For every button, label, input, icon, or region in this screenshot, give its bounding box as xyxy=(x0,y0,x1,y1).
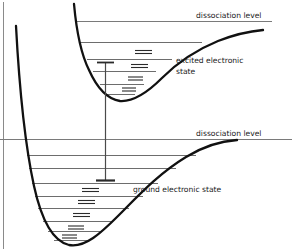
excited-state-label-line1: excited electronic xyxy=(176,56,243,65)
continuation-mark-group-c xyxy=(128,77,143,80)
ground-continuation-mark-group-b xyxy=(78,201,95,204)
ground-state-label: ground electronic state xyxy=(133,185,222,194)
ground-continuation-mark-group-a xyxy=(82,189,99,192)
ground-state-continuation-marks xyxy=(62,189,99,239)
lower-dissociation-level-label: dissociation level xyxy=(196,129,261,138)
continuation-mark-group-b xyxy=(131,65,148,68)
potential-energy-diagram: dissociation level excited electronic st… xyxy=(0,0,292,251)
ground-continuation-mark-group-e xyxy=(62,235,77,238)
upper-dissociation-level-label: dissociation level xyxy=(196,11,261,20)
ground-continuation-mark-group-d xyxy=(68,226,84,229)
continuation-mark-group-a xyxy=(135,51,152,54)
ground-continuation-mark-group-c xyxy=(73,214,90,217)
excited-state-label-line2: state xyxy=(176,67,196,76)
vertical-transition-arrow xyxy=(96,62,115,181)
continuation-mark-group-d xyxy=(122,88,136,91)
diagram-canvas: dissociation level excited electronic st… xyxy=(0,0,292,251)
